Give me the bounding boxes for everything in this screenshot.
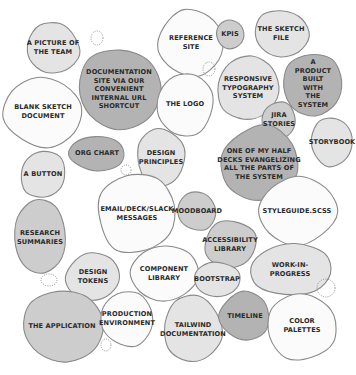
bubble-blank-sketch-document (3, 77, 82, 148)
bubble-storybook (311, 118, 352, 167)
bubble-bootstrap (195, 262, 241, 296)
empty-placeholder-circle (91, 31, 103, 45)
bubble-reference-site (158, 9, 224, 76)
bubble-research-summaries (15, 200, 66, 274)
bubble-production-environment (101, 292, 153, 347)
empty-placeholder-circle (101, 339, 111, 351)
bubble-email-deck-slack-messages (98, 174, 175, 252)
bubble-a-button (21, 151, 64, 197)
bubble-a-product-built-with-the-system (284, 55, 342, 116)
bubble-the-sketch-file (255, 11, 309, 57)
bubble-work-in-progress (251, 243, 331, 294)
bubble-documentation-site (79, 50, 161, 130)
bubble-accessibility-library (205, 221, 256, 268)
bubble-color-palettes (268, 294, 336, 360)
bubble-a-picture-of-the-team (27, 23, 80, 73)
bubble-org-chart (68, 137, 123, 171)
bubble-the-logo (157, 74, 213, 136)
empty-placeholder-circle (41, 274, 57, 286)
bubble-component-library (130, 246, 198, 301)
bubble-the-application (24, 291, 104, 362)
bubble-timeline (219, 291, 269, 340)
bubble-tailwind-documentation (165, 295, 223, 361)
bubble-diagram: A PICTURE OF THE TEAMDOCUMENTATION SITE … (0, 0, 356, 375)
bubble-kpis (217, 20, 244, 49)
bubble-canvas (0, 0, 356, 375)
bubble-moodboard (178, 192, 216, 230)
empty-placeholder-circle (121, 165, 131, 175)
